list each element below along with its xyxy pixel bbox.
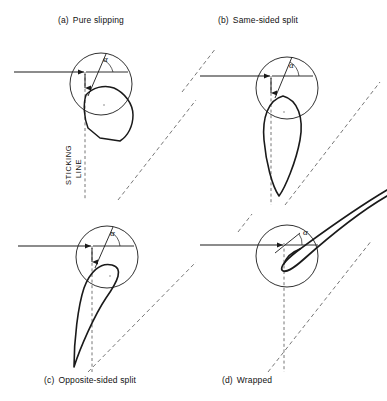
- panel-a-center-dot: [103, 104, 104, 105]
- panel-a-angle-ray: [88, 54, 106, 96]
- panel-c-angle-arc: [111, 232, 120, 246]
- figure-container: (a)Pure slipping (b)Same-sided split (c)…: [0, 0, 387, 401]
- panel-b-angle-arc: [290, 62, 299, 76]
- panel-a-diagonal-dashed-line: [118, 100, 196, 200]
- panel-a-angle-arc: [104, 60, 113, 72]
- panel-a-circle: [70, 53, 132, 115]
- panel-b-drawing: [182, 48, 380, 205]
- panel-c-circle: [76, 226, 138, 288]
- panel-d-diagonal-dashed-left: [238, 214, 252, 232]
- panel-c-angle-ray: [95, 227, 113, 268]
- panel-d-angle-arc: [299, 234, 302, 245]
- panel-d-wrapped-shape: [282, 190, 387, 271]
- panel-b-diagonal-dashed-left: [182, 48, 216, 92]
- diagram-svg: [0, 0, 387, 401]
- panel-b-angle-ray: [275, 57, 292, 98]
- panel-c-drawing: [18, 226, 196, 372]
- panel-d-drawing: [200, 190, 387, 372]
- panel-c-diagonal-dashed-line: [88, 262, 196, 372]
- panel-b-circle: [256, 57, 318, 119]
- panel-c-center-dot: [109, 275, 110, 276]
- panel-b-deformed-shape: [264, 96, 302, 196]
- panel-a-drawing: [14, 53, 196, 200]
- panel-b-center-dot: [283, 111, 284, 112]
- panel-c-deformed-shape: [74, 264, 119, 367]
